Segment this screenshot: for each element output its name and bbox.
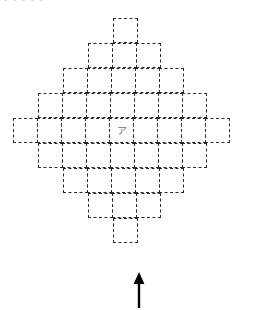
figure-canvas: ⅰ ⅰ ⅰ ⅰ ⅰ ァ <box>0 0 278 310</box>
grid-cell <box>110 93 135 118</box>
grid-cell <box>159 168 184 193</box>
grid-cell <box>38 93 63 118</box>
center-cell-label: ァ <box>116 124 128 136</box>
grid-cell <box>205 118 230 143</box>
grid-row <box>89 193 164 218</box>
grid-cell <box>13 118 38 143</box>
grid-cell <box>159 68 184 93</box>
diamond-cell-grid: ァ <box>14 18 264 268</box>
grid-cell <box>86 143 111 168</box>
grid-cell <box>113 18 138 43</box>
grid-row <box>64 168 189 193</box>
grid-row: ァ <box>14 118 239 143</box>
up-arrow-icon <box>132 272 146 308</box>
grid-cell <box>182 143 207 168</box>
grid-cell <box>157 118 182 143</box>
grid-cell <box>135 168 160 193</box>
grid-row <box>64 68 189 93</box>
grid-cell <box>62 93 87 118</box>
grid-row <box>39 143 214 168</box>
grid-row <box>89 43 164 68</box>
grid-row <box>114 18 139 43</box>
grid-cell <box>37 118 62 143</box>
grid-cell <box>134 143 159 168</box>
center-cell: ァ <box>109 118 134 143</box>
grid-cell <box>133 118 158 143</box>
grid-cell <box>136 193 161 218</box>
grid-cell <box>182 93 207 118</box>
grid-cell <box>111 68 136 93</box>
grid-cell <box>88 43 113 68</box>
grid-cell <box>87 168 112 193</box>
grid-cell <box>87 68 112 93</box>
grid-cell <box>134 93 159 118</box>
grid-cell <box>112 43 137 68</box>
grid-cell <box>62 143 87 168</box>
grid-cell <box>181 118 206 143</box>
grid-cell <box>158 93 183 118</box>
grid-cell <box>63 68 88 93</box>
grid-cell <box>85 118 110 143</box>
grid-cell <box>86 93 111 118</box>
grid-cell <box>88 193 113 218</box>
grid-cell <box>111 168 136 193</box>
grid-cell <box>110 143 135 168</box>
grid-cell <box>61 118 86 143</box>
grid-cell <box>136 43 161 68</box>
grid-cell <box>135 68 160 93</box>
grid-row <box>39 93 214 118</box>
grid-cell <box>112 193 137 218</box>
grid-cell <box>63 168 88 193</box>
grid-cell <box>38 143 63 168</box>
grid-cell <box>158 143 183 168</box>
top-caption-text: ⅰ ⅰ ⅰ ⅰ ⅰ <box>4 0 44 4</box>
grid-cell <box>113 218 138 243</box>
grid-row <box>114 218 139 243</box>
